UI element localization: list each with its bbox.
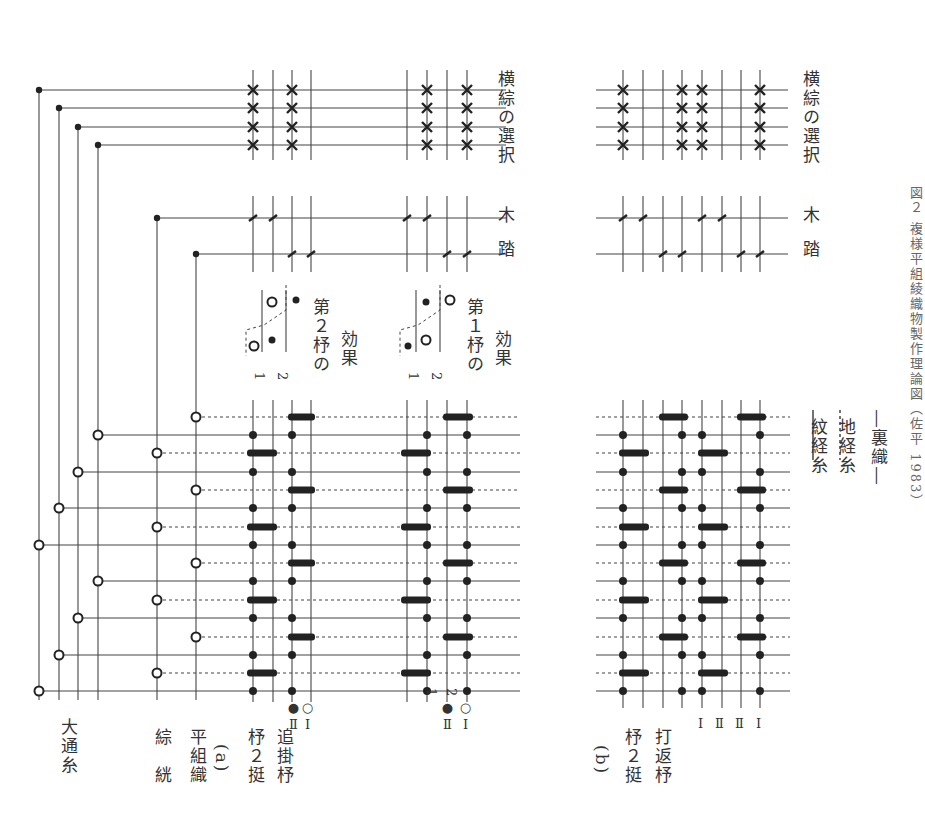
weft-bar	[401, 670, 431, 677]
weft-bar	[737, 414, 766, 421]
label-oikake-hi: 追掛杼	[272, 728, 297, 785]
weft-bar	[443, 634, 473, 641]
filled-dot	[678, 651, 686, 659]
filled-dot	[619, 577, 627, 585]
label-odori-ito: 大通糸	[56, 718, 81, 775]
weft-bar	[659, 634, 688, 641]
filled-dot	[423, 614, 431, 622]
legend-back-weave: ―裏織―	[866, 410, 891, 486]
label-sousou: 綜 絖	[150, 728, 175, 785]
filled-dot	[756, 651, 764, 659]
filled-dot	[249, 541, 257, 549]
heddle-ring	[153, 596, 162, 605]
filled-dot	[463, 504, 471, 512]
label-fumiki-b1: 踏	[798, 240, 823, 259]
weft-bar	[737, 487, 766, 494]
weft-bar	[619, 670, 649, 677]
filled-dot	[423, 299, 430, 306]
filled-dot	[423, 541, 431, 549]
draw-cord-ring	[35, 541, 44, 550]
filled-dot	[756, 468, 764, 476]
filled-dot	[756, 504, 764, 512]
filled-dot	[619, 614, 627, 622]
filled-dot	[678, 577, 686, 585]
label-mark-II-2: ●Ⅱ	[440, 700, 455, 734]
heddle-ring	[153, 523, 162, 532]
heddle-ring	[192, 486, 201, 495]
label-mark-I: ○Ⅰ	[300, 700, 315, 734]
weft-bar	[247, 597, 277, 604]
shed-num-2a: 2	[275, 372, 290, 382]
filled-dot	[756, 541, 764, 549]
filled-dot	[698, 651, 706, 659]
filled-dot	[463, 577, 471, 585]
filled-dot	[678, 504, 686, 512]
heddle-ring	[192, 413, 201, 422]
filled-dot	[288, 431, 296, 439]
heddle-anchor	[193, 251, 199, 257]
filled-dot	[288, 577, 296, 585]
filled-dot	[249, 687, 257, 695]
shed-num-2b: 2	[429, 372, 444, 382]
draw-cord-ring	[94, 577, 103, 586]
open-ring	[422, 336, 431, 345]
col-num-1: 1	[424, 688, 439, 698]
label-yokosou-select-a: 横綜の選択	[493, 70, 518, 165]
filled-dot	[698, 687, 706, 695]
label-effect-2: 第２杼の	[308, 298, 333, 374]
draw-cord-ring	[55, 504, 64, 513]
draw-cord-anchor	[75, 124, 81, 130]
filled-dot	[423, 651, 431, 659]
open-ring	[268, 298, 277, 307]
filled-dot	[698, 541, 706, 549]
weft-bar	[659, 560, 688, 567]
weft-bar	[619, 597, 649, 604]
filled-dot	[288, 651, 296, 659]
filled-dot	[249, 614, 257, 622]
legend-solid-label: 紋経糸	[806, 418, 831, 475]
label-mark-I-2: ○Ⅰ	[458, 700, 473, 734]
b-col-label-4: Ⅰ	[751, 716, 766, 733]
legend-dotted-label: 地経糸	[834, 418, 859, 475]
label-fumiki-a2: 木	[493, 206, 518, 225]
filled-dot	[288, 687, 296, 695]
weft-bar	[443, 487, 473, 494]
weft-bar	[659, 414, 688, 421]
filled-dot	[269, 337, 276, 344]
filled-dot	[463, 431, 471, 439]
filled-dot	[756, 577, 764, 585]
filled-dot	[619, 431, 627, 439]
filled-dot	[619, 468, 627, 476]
filled-dot	[423, 468, 431, 476]
filled-dot	[678, 687, 686, 695]
filled-dot	[423, 577, 431, 585]
filled-dot	[249, 577, 257, 585]
filled-dot	[405, 343, 412, 350]
weft-bar	[401, 524, 431, 531]
draw-cord-ring	[74, 468, 83, 477]
filled-dot	[463, 541, 471, 549]
draw-cord-ring	[35, 687, 44, 696]
draw-cord-anchor	[95, 142, 101, 148]
weft-bar	[247, 524, 277, 531]
label-part-a: (a)	[212, 744, 232, 773]
heddle-ring	[192, 559, 201, 568]
label-hira-soshiki: 平組織	[185, 728, 210, 785]
filled-dot	[698, 614, 706, 622]
shed-num-1a: 1	[252, 372, 267, 382]
weft-bar	[619, 524, 649, 531]
weft-bar	[698, 597, 728, 604]
filled-dot	[756, 614, 764, 622]
filled-dot	[463, 614, 471, 622]
heddle-ring	[153, 449, 162, 458]
filled-dot	[249, 651, 257, 659]
filled-dot	[288, 541, 296, 549]
label-effect-1: 第１杼の	[462, 298, 487, 374]
filled-dot	[463, 651, 471, 659]
weft-bar	[247, 450, 277, 457]
open-ring	[250, 342, 259, 351]
weft-bar	[288, 560, 315, 567]
filled-dot	[619, 687, 627, 695]
filled-dot	[423, 504, 431, 512]
filled-dot	[249, 431, 257, 439]
